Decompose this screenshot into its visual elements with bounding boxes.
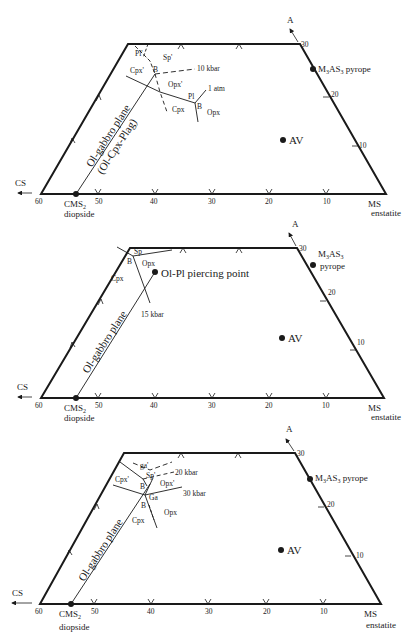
label-cpx-prime: Cpx' — [130, 66, 145, 75]
label-30kbar: 30 kbar — [183, 489, 206, 498]
label-10kbar: 10 kbar — [197, 64, 220, 73]
av-point — [280, 137, 286, 143]
svg-text:Ol-gabbro plane: Ol-gabbro plane — [80, 308, 129, 375]
svg-text:30: 30 — [208, 197, 216, 206]
diopside-name: diopside — [64, 209, 95, 219]
svg-text:50: 50 — [91, 607, 99, 616]
label-cpx-prime: Cpx' — [115, 475, 130, 484]
av-point — [278, 547, 284, 553]
av-label: AV — [288, 332, 303, 344]
label-pl-prime: Pl' — [135, 49, 143, 58]
av-point — [279, 335, 285, 341]
axis-a-label: A — [287, 15, 294, 25]
axis-cs-label: CS — [17, 382, 28, 392]
pyrope-name: pyrope — [320, 261, 345, 271]
plane-label: Ol-gabbro plane — [80, 308, 129, 375]
label-opx: Opx — [207, 108, 220, 117]
pyrope-label: M3AS3 pyrope — [315, 473, 368, 484]
diopside-point — [68, 601, 74, 607]
pyrope-label: M3AS3 pyrope — [318, 64, 371, 75]
pyrope-point — [307, 476, 313, 482]
enstatite-formula: MS — [364, 609, 377, 619]
piercing-point — [152, 269, 158, 275]
enstatite-name: enstatite — [371, 208, 401, 218]
svg-text:20: 20 — [327, 500, 335, 509]
av-label: AV — [289, 134, 304, 146]
label-opx-prime: Opx' — [160, 479, 175, 488]
label-b-upper: B — [153, 65, 158, 74]
label-20kbar: 20 kbar — [175, 468, 198, 477]
label-sp-prime: Sp' — [146, 471, 156, 480]
label-cpx: Cpx — [111, 274, 124, 283]
svg-text:10: 10 — [320, 607, 328, 616]
label-opx: Opx — [164, 508, 177, 517]
axis-a-label: A — [292, 219, 299, 229]
label-opx: Opx — [142, 259, 155, 268]
piercing-label: Ol-Pl piercing point — [161, 267, 249, 279]
diopside-name: diopside — [59, 622, 90, 632]
diopside-point — [73, 395, 79, 401]
enstatite-name: enstatite — [371, 412, 401, 422]
svg-text:20: 20 — [328, 288, 336, 297]
svg-text:40: 40 — [150, 401, 158, 410]
axis-a-label: A — [286, 424, 293, 434]
pyrope-point — [310, 66, 316, 72]
svg-text:30: 30 — [301, 40, 309, 49]
svg-text:10: 10 — [359, 141, 367, 150]
svg-text:40: 40 — [150, 197, 158, 206]
diopside-formula: CMS2 — [59, 609, 81, 620]
svg-text:10: 10 — [323, 197, 331, 206]
panel-3: ga' Sp' 20 kbar Cpx' B Opx' Ga 30 kbar B… — [12, 424, 396, 632]
svg-text:20: 20 — [331, 90, 339, 99]
svg-text:20: 20 — [265, 197, 273, 206]
label-sp: Sp — [134, 247, 142, 256]
svg-text:30: 30 — [299, 244, 307, 253]
label-b-upper: B — [140, 482, 145, 491]
label-sp-prime: Sp' — [163, 53, 173, 62]
panel-2: Sp B Opx Cpx 15 kbar Ol-Pl piercing poin… — [17, 219, 401, 423]
label-ga-prime: ga' — [140, 461, 149, 470]
label-1atm: 1 atm — [208, 84, 225, 93]
svg-text:10: 10 — [357, 338, 365, 347]
svg-text:50: 50 — [95, 197, 103, 206]
svg-text:50: 50 — [95, 401, 103, 410]
svg-text:60: 60 — [35, 401, 43, 410]
pyrope-formula: M3AS3 — [318, 249, 344, 260]
svg-text:20: 20 — [263, 607, 271, 616]
enstatite-name: enstatite — [366, 620, 396, 630]
diopside-name: diopside — [64, 413, 95, 423]
diopside-point — [73, 191, 79, 197]
label-b-lower: B — [141, 501, 146, 510]
svg-text:30: 30 — [205, 607, 213, 616]
svg-text:40: 40 — [147, 607, 155, 616]
label-cpx: Cpx — [132, 516, 145, 525]
panel-1: Pl' Sp' Cpx' B 10 kbar Opx' 1 atm Pl B C… — [15, 15, 401, 219]
svg-text:60: 60 — [35, 607, 43, 616]
label-ga: Ga — [149, 493, 158, 502]
svg-text:30: 30 — [208, 401, 216, 410]
pyrope-point — [310, 262, 316, 268]
plane-label: Ol-gabbro plane (Ol-Cpx-Plag) — [83, 102, 144, 176]
label-opx-prime: Opx' — [168, 80, 183, 89]
diagram-canvas: Pl' Sp' Cpx' B 10 kbar Opx' 1 atm Pl B C… — [0, 0, 416, 638]
svg-text:10: 10 — [322, 401, 330, 410]
svg-text:10: 10 — [356, 551, 364, 560]
label-15kbar: 15 kbar — [141, 310, 164, 319]
label-b: B — [127, 257, 132, 266]
av-label: AV — [287, 544, 302, 556]
axis-cs-label: CS — [15, 178, 26, 188]
axis-cs-label: CS — [12, 588, 23, 598]
svg-text:60: 60 — [35, 197, 43, 206]
svg-text:30: 30 — [297, 449, 305, 458]
label-b-lower: B — [197, 102, 202, 111]
svg-text:20: 20 — [265, 401, 273, 410]
label-pl: Pl — [188, 92, 194, 101]
label-cpx: Cpx — [172, 105, 185, 114]
